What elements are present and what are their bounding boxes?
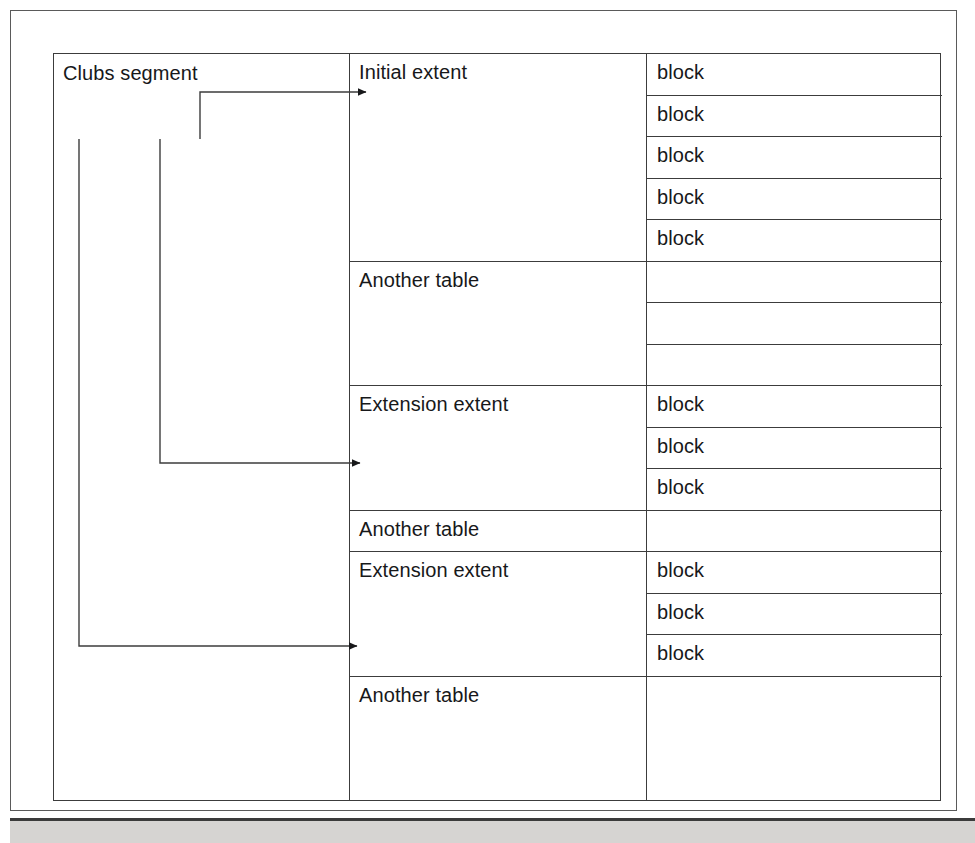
- other-table-cell: Another table: [350, 262, 646, 387]
- block-label: block: [657, 61, 704, 84]
- extent-label: Initial extent: [359, 61, 467, 84]
- block-label: block: [657, 103, 704, 126]
- block-row: [647, 262, 942, 304]
- other-table-cell: Another table: [350, 511, 646, 553]
- extent-label: Another table: [359, 684, 479, 707]
- extent-cell: Extension extent: [350, 552, 646, 677]
- block-label: block: [657, 186, 704, 209]
- page-bottom-band: [10, 821, 975, 843]
- segment-structure-table: Clubs segment Initial extentAnother tabl…: [53, 53, 941, 801]
- blocks-column: blockblockblockblockblockblockblockblock…: [647, 54, 942, 800]
- block-label: block: [657, 642, 704, 665]
- extent-label: Extension extent: [359, 393, 508, 416]
- block-label: block: [657, 476, 704, 499]
- diagram-page: Clubs segment Initial extentAnother tabl…: [0, 0, 975, 843]
- extent-label: Another table: [359, 518, 479, 541]
- block-label: block: [657, 601, 704, 624]
- block-label: block: [657, 393, 704, 416]
- other-table-cell: Another table: [350, 677, 646, 719]
- block-row: [647, 677, 942, 719]
- block-label: block: [657, 435, 704, 458]
- block-row: [647, 303, 942, 345]
- block-row: block: [647, 552, 942, 594]
- block-row: block: [647, 469, 942, 511]
- block-row: block: [647, 96, 942, 138]
- block-row: block: [647, 635, 942, 677]
- block-row: block: [647, 220, 942, 262]
- block-row: block: [647, 594, 942, 636]
- block-row: block: [647, 54, 942, 96]
- block-label: block: [657, 559, 704, 582]
- extent-cell: Extension extent: [350, 386, 646, 511]
- block-row: block: [647, 179, 942, 221]
- extent-label: Extension extent: [359, 559, 508, 582]
- block-row: block: [647, 428, 942, 470]
- block-row: block: [647, 137, 942, 179]
- block-label: block: [657, 227, 704, 250]
- extent-label: Another table: [359, 269, 479, 292]
- extent-cell: Initial extent: [350, 54, 646, 262]
- block-row: [647, 345, 942, 387]
- block-row: block: [647, 386, 942, 428]
- page-bottom-rule: [10, 818, 975, 821]
- extents-column: Initial extentAnother tableExtension ext…: [350, 54, 647, 800]
- block-label: block: [657, 144, 704, 167]
- page-frame: Clubs segment Initial extentAnother tabl…: [10, 10, 957, 811]
- segment-cell: Clubs segment: [54, 54, 350, 800]
- block-row: [647, 511, 942, 553]
- segment-label: Clubs segment: [63, 62, 198, 85]
